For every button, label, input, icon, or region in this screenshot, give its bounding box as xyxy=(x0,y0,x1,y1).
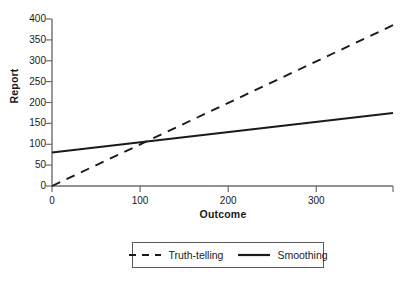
legend-entry-truth-telling: Truth-telling xyxy=(128,250,223,261)
legend-entry-smoothing: Smoothing xyxy=(237,250,327,261)
x-tick-label: 200 xyxy=(208,196,248,206)
legend-swatch-solid-icon xyxy=(237,250,271,260)
chart-legend: Truth-telling Smoothing xyxy=(132,242,324,268)
x-axis-title: Outcome xyxy=(52,208,394,220)
legend-label: Truth-telling xyxy=(168,250,223,261)
legend-label: Smoothing xyxy=(277,250,327,261)
chart-figure: 0 50 100 150 200 250 300 350 400 0 100 2… xyxy=(0,0,414,283)
x-tick-label-group: 0 100 200 300 xyxy=(0,0,414,283)
legend-swatch-dashed-icon xyxy=(128,250,162,260)
y-axis-title: Report xyxy=(8,56,20,116)
x-tick-label: 0 xyxy=(32,196,72,206)
x-tick-label: 300 xyxy=(296,196,336,206)
x-tick-label: 100 xyxy=(120,196,160,206)
